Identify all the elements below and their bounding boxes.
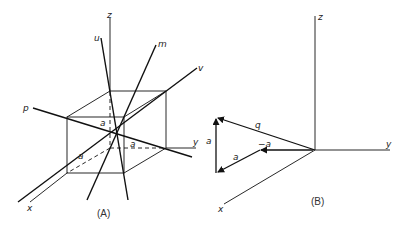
- u-label: u: [94, 33, 100, 43]
- m-label: m: [158, 39, 167, 49]
- p-label: p: [22, 103, 29, 113]
- x-axis: [30, 173, 67, 202]
- a-label-diag: a: [233, 152, 239, 162]
- line-p: [33, 108, 192, 157]
- line-v: [18, 68, 197, 202]
- vector-a-diag: [218, 150, 260, 172]
- neg-a-label: −a: [258, 139, 271, 149]
- panel-b-labels: z y x q a a −a (B): [206, 12, 392, 214]
- x-label-b: x: [217, 204, 224, 214]
- v-label: v: [198, 63, 204, 73]
- a-label-right: a: [130, 139, 136, 149]
- panel-b: [216, 16, 390, 204]
- q-label: q: [255, 120, 261, 130]
- caption-b: (B): [311, 196, 324, 207]
- y-label-b: y: [385, 139, 392, 149]
- a-label-vertical: a: [206, 136, 212, 146]
- panel-a: [18, 18, 197, 202]
- y-label-a: y: [192, 137, 199, 147]
- z-label-b: z: [317, 12, 323, 22]
- x-label-a: x: [26, 203, 33, 213]
- figure-canvas: z y x u m v p a a a (A) z y x q a a −a (…: [0, 0, 411, 229]
- a-label-left: a: [78, 151, 84, 161]
- z-label-a: z: [106, 10, 112, 20]
- line-m: [87, 45, 156, 200]
- caption-a: (A): [97, 208, 110, 219]
- panel-a-labels: z y x u m v p a a a (A): [22, 10, 204, 219]
- a-label-top: a: [100, 118, 106, 128]
